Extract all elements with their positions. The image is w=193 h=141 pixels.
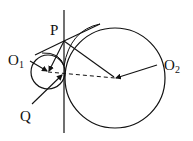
pointer-q bbox=[32, 75, 62, 104]
label-o1: O bbox=[8, 52, 19, 68]
label-o1-sub: 1 bbox=[19, 59, 24, 70]
center-line-dashed bbox=[48, 72, 115, 78]
label-o2-sub: 2 bbox=[175, 64, 180, 75]
label-q: Q bbox=[20, 108, 31, 124]
label-p: P bbox=[50, 22, 58, 38]
diagram-canvas: P O 1 O 2 Q bbox=[0, 0, 193, 141]
pointer-o2 bbox=[116, 65, 157, 78]
line-p-o2 bbox=[64, 41, 114, 77]
label-o2: O bbox=[164, 57, 175, 73]
